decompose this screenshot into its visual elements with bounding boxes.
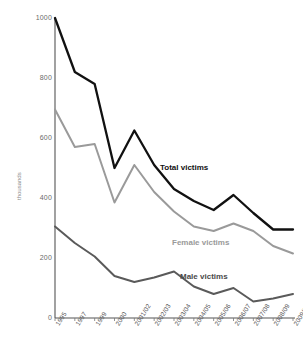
series-line-female-victims — [55, 110, 293, 254]
annotation-female-victims: Female victims — [172, 238, 229, 247]
annotation-male-victims: Male victims — [180, 272, 228, 281]
series-line-total-victims — [55, 18, 293, 230]
series-lines — [55, 18, 293, 302]
annotation-total-victims: Total victims — [160, 163, 208, 172]
line-chart: thousands 1000 800 600 400 200 0 Total v… — [0, 0, 303, 360]
